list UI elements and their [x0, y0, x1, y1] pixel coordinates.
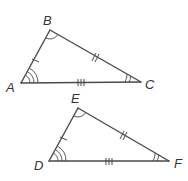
vertex-label-b: B [43, 13, 52, 28]
side-ab [21, 30, 50, 83]
vertex-label-f: F [174, 156, 183, 171]
vertex-label-e: E [71, 91, 80, 106]
vertex-label-c: C [145, 77, 155, 92]
congruent-triangles-diagram: A B C D E F [0, 0, 188, 181]
triangle-def [49, 108, 169, 165]
vertex-label-a: A [5, 80, 15, 95]
triangle-abc [21, 30, 141, 86]
vertex-label-d: D [34, 158, 43, 173]
